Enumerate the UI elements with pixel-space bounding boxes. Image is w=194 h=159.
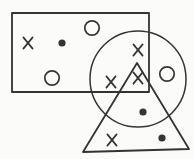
symbol-filled-dot [158,134,165,141]
symbol-filled-dot [58,39,65,46]
venn-diagram-figure [0,0,194,159]
symbol-x-mark [107,134,116,145]
symbol-x-mark [133,44,142,55]
symbol-open-ring [160,67,174,81]
symbol-x-mark [106,76,115,87]
rectangle-outline [12,13,149,92]
symbol-x-mark [133,72,142,83]
symbol-filled-dot [139,108,146,115]
figure-svg [0,0,194,159]
symbol-open-ring [45,71,59,85]
symbol-open-ring [85,21,99,35]
symbol-x-mark [23,37,32,48]
